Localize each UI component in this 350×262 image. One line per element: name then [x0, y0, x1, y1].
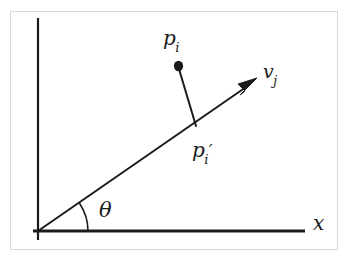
label-vector-vj: vj	[263, 62, 278, 85]
label-point-pi: pi	[163, 28, 180, 52]
label-x-axis: x	[313, 213, 324, 233]
label-point-pi-base: p	[163, 26, 176, 50]
label-vector-vj-subscript: j	[273, 73, 277, 88]
label-point-pi-prime-base: p	[192, 138, 205, 162]
label-point-pi-prime-mark: ′	[209, 140, 213, 160]
label-point-pi-subscript: i	[175, 40, 179, 55]
label-point-pi-prime: pi′	[192, 140, 213, 164]
label-angle-theta: θ	[99, 200, 112, 221]
label-point-pi-prime-subscript: i	[204, 152, 208, 167]
figure-canvas: pi pi′ vj θ x	[0, 0, 350, 262]
point-pi-marker	[174, 61, 183, 71]
